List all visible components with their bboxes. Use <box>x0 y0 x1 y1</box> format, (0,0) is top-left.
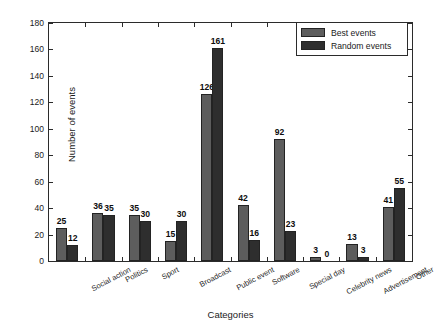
bar-value-label: 23 <box>286 219 296 229</box>
bar <box>346 244 357 261</box>
bar <box>56 228 67 261</box>
y-axis-tick-label: 60 <box>35 177 44 187</box>
bar <box>129 215 140 261</box>
bar <box>238 205 249 261</box>
bar <box>201 94 212 261</box>
x-axis-tick-label: Broadcast <box>198 265 232 289</box>
bar-value-label: 55 <box>395 176 405 186</box>
bar-value-label: 41 <box>384 195 394 205</box>
bar-value-label: 161 <box>211 36 225 46</box>
bar <box>165 241 176 261</box>
bar <box>394 188 405 261</box>
bar-value-label: 42 <box>238 193 248 203</box>
bar <box>67 245 78 261</box>
x-axis-tick-mark <box>412 23 413 27</box>
y-axis-tick-label: 20 <box>35 230 44 240</box>
bar-value-label: 30 <box>177 209 187 219</box>
y-axis-tick-label: 160 <box>30 44 44 54</box>
y-axis-tick-label: 180 <box>30 18 44 28</box>
bar-value-label: 30 <box>141 209 151 219</box>
bar <box>140 221 151 261</box>
y-axis-tick-mark <box>49 261 53 262</box>
legend-item-best-events: Best events <box>301 26 403 39</box>
bar-value-label: 36 <box>93 201 103 211</box>
x-axis-title: Categories <box>48 309 413 320</box>
y-axis-tick-label: 0 <box>39 256 44 266</box>
bar <box>249 240 260 261</box>
y-axis-tick-label: 100 <box>30 124 44 134</box>
bar-value-label: 16 <box>249 228 259 238</box>
y-axis-tick-label: 140 <box>30 71 44 81</box>
bar <box>310 257 321 261</box>
legend-swatch-best-events <box>301 28 325 37</box>
x-axis-tick-label: Software <box>270 265 301 287</box>
legend-swatch-random-events <box>301 41 325 50</box>
plot-area: 020406080100120140160180Social actionPol… <box>48 22 413 262</box>
chart-legend: Best events Random events <box>296 22 408 56</box>
y-axis-tick-label: 80 <box>35 150 44 160</box>
x-axis-tick-label: Special day <box>308 265 347 291</box>
bar-value-label: 13 <box>347 232 357 242</box>
bars-layer: 251236353530153012616142169223301334155 <box>49 23 412 261</box>
bar-value-label: 35 <box>104 203 114 213</box>
bar-value-label: 92 <box>275 127 285 137</box>
bar <box>274 139 285 261</box>
bar-value-label: 12 <box>68 233 78 243</box>
bar <box>92 213 103 261</box>
legend-label-random-events: Random events <box>331 41 391 51</box>
bar-value-label: 35 <box>129 203 139 213</box>
y-axis-tick-mark <box>408 261 412 262</box>
legend-label-best-events: Best events <box>331 28 376 38</box>
bar-value-label: 15 <box>166 229 176 239</box>
bar <box>383 207 394 261</box>
bar-value-label: 3 <box>313 245 318 255</box>
bar <box>285 231 296 261</box>
y-axis-tick-label: 120 <box>30 97 44 107</box>
bar-value-label: 3 <box>361 245 366 255</box>
x-axis-tick-mark <box>412 257 413 261</box>
y-axis-tick-label: 40 <box>35 203 44 213</box>
x-axis-tick-label: Sport <box>160 265 180 281</box>
bar <box>358 257 369 261</box>
bar <box>212 48 223 261</box>
legend-item-random-events: Random events <box>301 39 403 52</box>
bar-value-label: 0 <box>324 249 329 259</box>
bar <box>176 221 187 261</box>
bar <box>103 215 114 261</box>
y-axis-title: Number of events <box>66 25 77 225</box>
